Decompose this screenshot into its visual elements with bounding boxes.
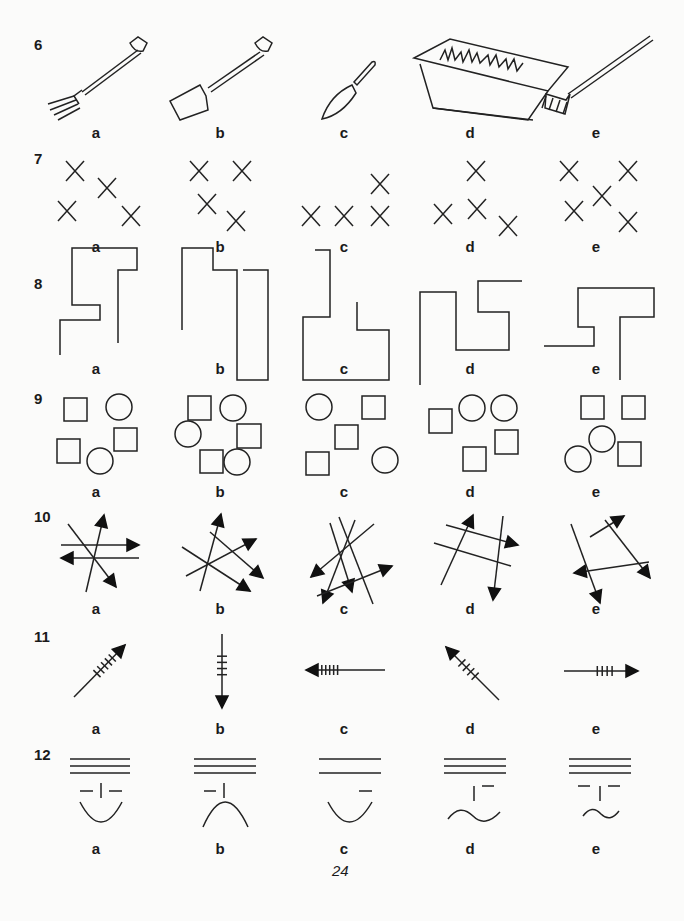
cross-mark bbox=[122, 206, 140, 226]
crossing-arrow bbox=[68, 524, 116, 587]
cross-mark bbox=[198, 194, 216, 214]
trowel-icon bbox=[322, 61, 375, 119]
crossing-arrow bbox=[186, 539, 256, 576]
crossing-arrow bbox=[200, 514, 224, 591]
cross-mark bbox=[58, 201, 76, 221]
q10-figures bbox=[61, 514, 650, 604]
q8-c-shape bbox=[303, 250, 389, 380]
cross-mark bbox=[371, 206, 389, 226]
feathered-arrow-c bbox=[306, 664, 385, 676]
q9-figures bbox=[57, 394, 645, 475]
q12-figures bbox=[70, 759, 631, 827]
cross-mark bbox=[434, 204, 452, 224]
crossing-arrow bbox=[590, 516, 624, 537]
rake-icon bbox=[542, 36, 653, 114]
cross-mark bbox=[619, 161, 637, 181]
cross-mark bbox=[302, 206, 320, 226]
cross-mark bbox=[560, 161, 578, 181]
feathered-arrow-d bbox=[446, 647, 499, 700]
garden-fork-icon bbox=[48, 37, 147, 120]
feathered-arrow-a bbox=[74, 645, 125, 697]
q11-figures bbox=[74, 634, 638, 708]
cross-mark bbox=[335, 206, 353, 226]
page-number: 24 bbox=[332, 862, 349, 879]
q8-a-shape bbox=[60, 248, 137, 355]
crossing-arrow bbox=[605, 520, 650, 578]
q8-b-shape bbox=[182, 248, 268, 380]
cross-mark bbox=[66, 161, 84, 181]
crossing-arrow bbox=[311, 524, 374, 577]
crossing-arrow bbox=[317, 565, 392, 596]
spade-icon bbox=[170, 37, 272, 120]
cross-mark bbox=[468, 199, 486, 219]
cross-mark bbox=[467, 161, 485, 181]
crossing-arrow bbox=[61, 552, 139, 564]
cross-mark bbox=[565, 201, 583, 221]
cross-mark bbox=[233, 161, 251, 181]
q8-d-shape bbox=[420, 281, 522, 385]
cross-mark bbox=[619, 212, 637, 232]
feathered-arrow-b bbox=[216, 634, 228, 708]
q7-figures bbox=[58, 161, 637, 236]
crossing-arrow bbox=[574, 562, 649, 577]
cross-mark bbox=[190, 161, 208, 181]
q8-figures bbox=[60, 248, 654, 385]
cross-mark bbox=[227, 211, 245, 231]
crossing-arrow bbox=[61, 539, 139, 551]
crossing-arrow bbox=[446, 525, 518, 548]
figures-canvas bbox=[0, 0, 684, 921]
feathered-arrow-e bbox=[564, 665, 638, 677]
cross-mark bbox=[499, 216, 517, 236]
crossing-arrow bbox=[488, 516, 503, 600]
crossing-arrow bbox=[571, 524, 601, 603]
cross-mark bbox=[371, 174, 389, 194]
q8-e-shape bbox=[544, 288, 654, 380]
cross-mark bbox=[593, 186, 611, 206]
crossing-arrow bbox=[182, 547, 250, 591]
cross-mark bbox=[98, 178, 116, 198]
